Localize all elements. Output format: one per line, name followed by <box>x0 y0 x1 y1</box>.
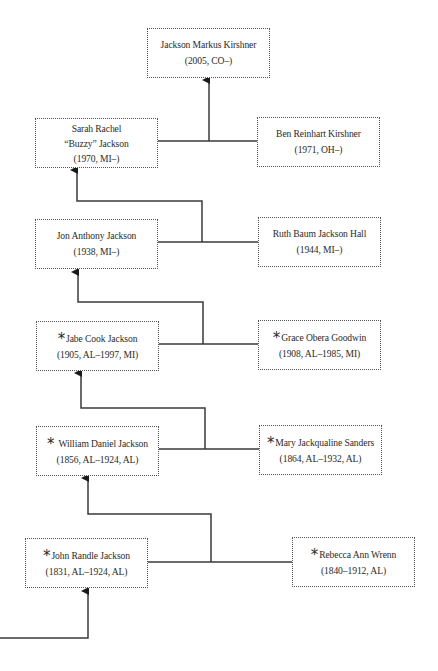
person-dates: (1831, AL–1924, AL) <box>46 564 128 580</box>
person-william-daniel-jackson: *William Daniel Jackson (1856, AL–1924, … <box>36 426 159 476</box>
person-dates: (1864, AL–1932, AL) <box>280 451 362 467</box>
person-grace-obera-goodwin: *Grace Obera Goodwin (1908, AL–1985, MI) <box>258 320 381 370</box>
person-dates: (1840–1912, AL) <box>321 563 386 579</box>
person-name-row: *Grace Obera Goodwin <box>273 328 366 346</box>
person-ben-reinhart-kirshner: Ben Reinhart Kirshner (1971, OH–) <box>257 117 380 167</box>
person-dates: (1856, AL–1924, AL) <box>57 452 139 468</box>
person-name-row: *Mary Jackqualine Sanders <box>267 433 374 451</box>
person-name-row: *William Daniel Jackson <box>47 434 148 452</box>
person-dates: (1905, AL–1997, MI) <box>57 347 138 363</box>
person-dates: (1938, MI–) <box>74 244 120 260</box>
person-dates: (1970, MI–) <box>74 151 120 166</box>
asterisk-marker-icon: * <box>273 329 280 347</box>
person-name: Ruth Baum Jackson Hall <box>273 226 366 242</box>
person-name: Jackson Markus Kirshner <box>161 37 257 53</box>
person-name-line1: Sarah Rachel <box>72 121 122 136</box>
person-jackson-markus-kirshner: Jackson Markus Kirshner (2005, CO–) <box>147 28 270 78</box>
asterisk-marker-icon: * <box>43 547 50 565</box>
asterisk-marker-icon: * <box>58 330 65 348</box>
person-dates: (1944, MI–) <box>297 242 343 258</box>
descent-line-to-john <box>0 591 88 638</box>
person-name: Grace Obera Goodwin <box>281 332 366 343</box>
person-jon-anthony-jackson: Jon Anthony Jackson (1938, MI–) <box>35 219 158 269</box>
person-name-row: *Rebecca Ann Wrenn <box>311 545 397 563</box>
family-tree-diagram: Jackson Markus Kirshner (2005, CO–) Sara… <box>0 0 438 671</box>
person-dates: (1971, OH–) <box>295 142 343 158</box>
person-name: Mary Jackqualine Sanders <box>275 437 374 448</box>
person-name: Rebecca Ann Wrenn <box>319 549 396 560</box>
person-dates: (2005, CO–) <box>185 53 232 69</box>
person-rebecca-ann-wrenn: *Rebecca Ann Wrenn (1840–1912, AL) <box>292 537 415 587</box>
person-name: William Daniel Jackson <box>58 438 148 449</box>
person-name-line2: “Buzzy” Jackson <box>64 136 128 151</box>
asterisk-marker-icon: * <box>267 434 274 452</box>
person-name-row: *Jabe Cook Jackson <box>58 329 138 347</box>
person-ruth-baum-jackson-hall: Ruth Baum Jackson Hall (1944, MI–) <box>258 217 381 267</box>
person-jabe-cook-jackson: *Jabe Cook Jackson (1905, AL–1997, MI) <box>36 321 159 371</box>
person-name: John Randle Jackson <box>51 550 130 561</box>
person-sarah-rachel-jackson: Sarah Rachel “Buzzy” Jackson (1970, MI–) <box>35 118 158 168</box>
person-john-randle-jackson: *John Randle Jackson (1831, AL–1924, AL) <box>25 538 148 588</box>
person-name-row: *John Randle Jackson <box>43 546 130 564</box>
person-name: Jabe Cook Jackson <box>66 333 137 344</box>
person-dates: (1908, AL–1985, MI) <box>279 346 360 362</box>
person-name: Ben Reinhart Kirshner <box>276 126 361 142</box>
person-name: Jon Anthony Jackson <box>57 228 137 244</box>
asterisk-marker-icon: * <box>311 546 318 564</box>
asterisk-marker-icon: * <box>47 435 54 453</box>
person-mary-jackqualine-sanders: *Mary Jackqualine Sanders (1864, AL–1932… <box>259 425 382 475</box>
